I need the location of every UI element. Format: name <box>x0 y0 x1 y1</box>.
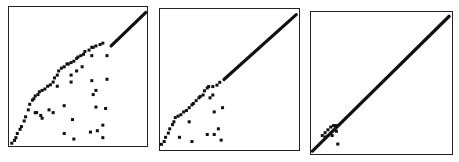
data-point <box>76 56 79 59</box>
data-point <box>324 131 327 134</box>
data-point <box>10 142 13 145</box>
data-point <box>192 102 195 105</box>
data-point <box>39 114 42 117</box>
data-point <box>218 81 221 84</box>
data-point <box>171 123 174 126</box>
data-point <box>206 133 209 136</box>
data-point <box>79 54 82 57</box>
data-point <box>163 140 166 143</box>
data-point <box>221 106 224 109</box>
data-point <box>72 138 75 141</box>
scatter-panel-3 <box>310 11 453 155</box>
data-point <box>217 127 220 130</box>
data-point <box>101 124 104 127</box>
data-point <box>167 132 170 135</box>
data-point <box>70 74 73 77</box>
data-point <box>52 81 55 84</box>
data-point <box>56 85 59 88</box>
data-point <box>16 132 19 135</box>
data-point <box>36 93 39 96</box>
data-point <box>72 60 75 63</box>
data-point <box>24 115 27 118</box>
data-point <box>211 93 214 96</box>
data-point <box>14 136 17 139</box>
data-point <box>99 43 102 46</box>
data-point <box>27 108 30 111</box>
data-point <box>57 69 60 72</box>
data-point <box>164 136 167 139</box>
data-point <box>178 136 181 139</box>
data-point <box>160 143 163 146</box>
diagonal-line <box>224 15 296 80</box>
data-point <box>83 50 86 53</box>
data-point <box>104 107 107 110</box>
data-point <box>324 135 327 138</box>
data-point <box>321 134 324 137</box>
data-point <box>101 42 104 45</box>
data-point <box>60 67 63 70</box>
data-point <box>177 115 180 118</box>
scatter-panel-2 <box>159 8 300 151</box>
data-point <box>179 113 182 116</box>
data-point <box>70 61 73 64</box>
data-point <box>41 89 44 92</box>
data-point <box>49 83 52 86</box>
data-point <box>23 119 26 122</box>
data-point <box>46 85 49 88</box>
scatter-panel-1 <box>8 6 148 147</box>
data-point <box>188 106 191 109</box>
data-point <box>43 87 46 90</box>
data-point <box>105 54 108 57</box>
data-point <box>75 69 78 72</box>
data-point <box>82 53 85 56</box>
data-point <box>92 46 95 49</box>
data-point <box>94 106 97 109</box>
data-point <box>209 96 212 99</box>
data-point <box>63 132 66 135</box>
data-point <box>13 139 16 142</box>
data-point <box>207 85 210 88</box>
data-point <box>168 127 171 130</box>
data-point <box>195 99 198 102</box>
data-point <box>329 126 332 129</box>
data-point <box>188 120 191 123</box>
data-point <box>215 84 218 87</box>
data-point <box>35 111 38 114</box>
data-point <box>34 94 37 97</box>
plot-area-2 <box>160 9 299 150</box>
data-point <box>63 65 66 68</box>
plot-area-3 <box>311 12 452 154</box>
data-point <box>48 108 51 111</box>
data-point <box>190 140 193 143</box>
data-point <box>92 93 95 96</box>
plot-area-1 <box>9 7 147 146</box>
data-point <box>182 110 185 113</box>
data-point <box>203 89 206 92</box>
diagonal-line <box>111 13 146 46</box>
data-point <box>336 143 339 146</box>
data-point <box>71 118 74 121</box>
data-point <box>213 110 216 113</box>
data-point <box>56 74 59 77</box>
data-point <box>90 79 93 82</box>
data-point <box>52 111 55 114</box>
data-point <box>89 131 92 134</box>
data-point <box>70 81 73 84</box>
data-point <box>88 49 91 52</box>
data-point <box>202 93 205 96</box>
data-point <box>211 85 214 88</box>
data-point <box>94 89 97 92</box>
data-point <box>38 90 41 93</box>
data-point <box>105 78 108 81</box>
data-point <box>41 117 44 120</box>
data-point <box>335 124 338 127</box>
data-point <box>63 104 66 107</box>
diagonal-line <box>312 16 449 151</box>
data-point <box>20 125 23 128</box>
data-point <box>213 133 216 136</box>
data-point <box>326 128 329 131</box>
data-point <box>331 134 334 137</box>
data-point <box>174 116 177 119</box>
data-point <box>19 128 22 131</box>
data-point <box>185 109 188 112</box>
